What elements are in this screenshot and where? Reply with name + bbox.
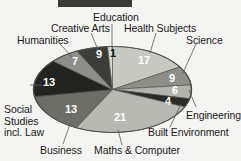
label-creative-arts: Creative Arts [51,23,110,35]
label-maths-computer: Maths & Computer [94,145,180,157]
value-health-subjects: 17 [138,54,150,66]
label-built-environment: Built Environment [148,127,229,139]
value-social-studies: 13 [43,76,55,88]
value-maths-computer: 21 [114,111,126,123]
label-business: Business [40,145,82,157]
value-built-environment: 4 [165,95,172,107]
pie-chart-figure: 17 9 6 4 21 13 13 7 9 1 Education Creati… [0,0,241,161]
label-humanities: Humanities [17,35,69,47]
value-education: 1 [110,47,116,59]
pie-slices [33,46,191,132]
leader-business [63,124,70,144]
label-social-studies: Social Studies incl. Law [4,104,50,139]
leader-health-subjects [150,33,156,53]
label-health-subjects: Health Subjects [124,23,196,35]
value-humanities: 7 [72,55,78,67]
value-business: 13 [65,103,77,115]
value-creative-arts: 9 [96,48,102,60]
value-engineering: 6 [172,84,178,96]
value-science: 9 [169,72,175,84]
label-science: Science [186,35,223,47]
label-engineering: Engineering [186,110,241,122]
leader-science [183,44,196,73]
